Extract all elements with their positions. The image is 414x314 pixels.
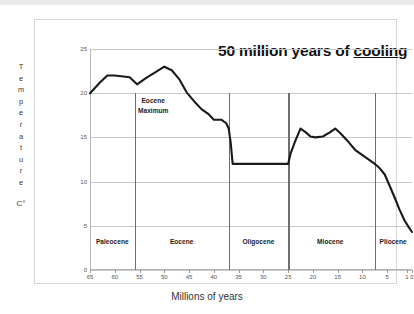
y-axis-letter-5: r (20, 120, 23, 129)
x-tick-label-30: 30 (260, 274, 267, 280)
x-tick-label-65: 65 (87, 274, 94, 280)
x-tick-label-35: 35 (235, 274, 242, 280)
y-tick-label-20: 20 (80, 90, 87, 96)
x-tick-label-25: 25 (285, 274, 292, 280)
gridline-y-0 (90, 270, 412, 271)
x-tick-label-55: 55 (136, 274, 143, 280)
x-tick-label-40: 40 (211, 274, 218, 280)
x-tick-label-15: 15 (334, 274, 341, 280)
y-axis-letter-1: e (19, 74, 23, 83)
y-tick-label-5: 5 (84, 223, 87, 229)
x-tick-40 (214, 270, 215, 273)
x-tick-45 (189, 270, 190, 273)
x-tick-5 (387, 270, 388, 273)
y-axis-letter-8: u (19, 155, 23, 164)
x-tick-60 (115, 270, 116, 273)
y-axis-unit: C° (12, 198, 30, 210)
y-axis-letter-0: T (19, 62, 24, 71)
y-axis-letter-3: p (19, 97, 23, 106)
x-tick-1 (407, 270, 408, 273)
y-axis-letter-9: r (20, 166, 23, 175)
x-tick-25 (288, 270, 289, 273)
y-tick-label-15: 15 (80, 134, 87, 140)
x-tick-35 (239, 270, 240, 273)
y-axis-letter-7: t (20, 143, 22, 152)
y-tick-label-10: 10 (80, 179, 87, 185)
y-axis-caption: T e m p e r a t u r e C° (12, 61, 30, 209)
temperature-curve (90, 49, 412, 270)
x-axis-caption: Millions of years (0, 291, 414, 302)
x-tick-20 (313, 270, 314, 273)
x-tick-30 (263, 270, 264, 273)
x-tick-label-20: 20 (310, 274, 317, 280)
y-axis-letter-6: a (19, 132, 23, 141)
y-axis-letter-2: m (18, 85, 24, 94)
x-tick-label-1: 1 (405, 274, 408, 280)
x-tick-0 (412, 270, 413, 273)
x-tick-label-10: 10 (359, 274, 366, 280)
y-axis-letter-10: e (19, 178, 23, 187)
x-tick-label-50: 50 (161, 274, 168, 280)
series-line-global-temperature (90, 67, 412, 232)
x-tick-50 (164, 270, 165, 273)
plot-area: 0510152025 656055504540353025201510510 P… (90, 49, 412, 270)
x-tick-label-45: 45 (186, 274, 193, 280)
x-tick-label-0: 0 (410, 274, 413, 280)
x-tick-15 (338, 270, 339, 273)
chart-frame: 50 million years of cooling Eocene Maxim… (34, 19, 397, 284)
y-tick-label-0: 0 (84, 267, 87, 273)
x-tick-65 (90, 270, 91, 273)
x-tick-label-5: 5 (386, 274, 389, 280)
chart-figure: T e m p e r a t u r e C° 50 million year… (0, 5, 414, 314)
x-tick-55 (140, 270, 141, 273)
y-axis-letter-4: e (19, 108, 23, 117)
x-tick-label-60: 60 (111, 274, 118, 280)
x-tick-10 (362, 270, 363, 273)
y-tick-label-25: 25 (80, 46, 87, 52)
